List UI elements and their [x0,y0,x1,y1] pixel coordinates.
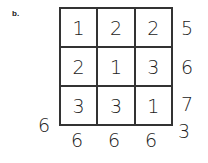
grid-cell: 3 [135,47,172,86]
diagonal-sum-left: 6 [38,114,50,136]
number-grid: 1 2 2 2 1 3 3 3 1 [59,7,173,126]
col-sum: 6 [108,129,120,151]
figure-label: b. [12,9,19,18]
row-sum: 7 [181,93,193,115]
col-sum: 6 [145,129,157,151]
grid-cell: 1 [97,47,134,86]
grid-cell: 2 [60,47,97,86]
grid-cell: 3 [97,86,134,125]
row-sum: 6 [181,56,193,78]
grid-cell: 1 [135,86,172,125]
grid-cell: 3 [60,86,97,125]
row-sum: 5 [181,17,193,39]
grid-cell: 1 [60,8,97,47]
diagonal-sum-right: 3 [178,120,190,142]
grid-cell: 2 [97,8,134,47]
col-sum: 6 [71,129,83,151]
grid-cell: 2 [135,8,172,47]
